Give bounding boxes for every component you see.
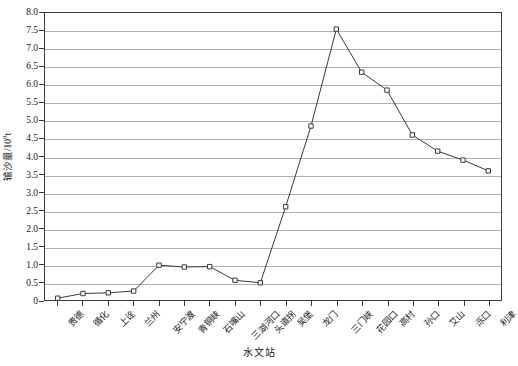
x-axis-category-label: 安宁渡 — [170, 309, 196, 335]
x-axis-category-label: 三门峡 — [349, 309, 375, 335]
y-axis-tick-label: 4.0 — [0, 151, 44, 163]
data-point-marker — [435, 149, 439, 153]
x-axis-category-label: 吴堡 — [295, 309, 315, 329]
x-tick-mark — [388, 301, 389, 306]
y-axis-tick-label: 1.0 — [0, 259, 44, 271]
x-axis-category-label: 利津 — [499, 309, 518, 329]
x-tick-mark — [235, 301, 236, 306]
x-axis-category-label: 花园口 — [374, 309, 400, 335]
y-axis-tick-label: 2.0 — [0, 223, 44, 235]
data-point-marker — [486, 169, 490, 173]
x-axis-category-label: 泺口 — [473, 309, 493, 329]
data-point-marker — [233, 278, 237, 282]
x-tick-mark — [413, 301, 414, 306]
x-tick-mark — [311, 301, 312, 306]
y-axis-tick-label: 4.5 — [0, 132, 44, 144]
x-axis-category-label: 贵德 — [66, 309, 86, 329]
data-point-marker — [182, 265, 186, 269]
y-axis-tick-label: 8.0 — [0, 6, 44, 18]
data-point-marker — [55, 296, 59, 300]
data-point-marker — [334, 27, 338, 31]
x-axis-ticks — [44, 301, 502, 307]
data-point-marker — [283, 205, 287, 209]
y-axis-tick-label: 0 — [0, 295, 44, 307]
x-axis-category-label: 孙口 — [422, 309, 442, 329]
y-axis-tick-label: 2.5 — [0, 205, 44, 217]
data-point-marker — [106, 291, 110, 295]
y-axis-tick-label: 3.5 — [0, 169, 44, 181]
data-point-marker — [309, 124, 313, 128]
x-tick-mark — [337, 301, 338, 306]
y-axis-tick-label: 7.5 — [0, 24, 44, 36]
data-point-marker — [385, 88, 389, 92]
x-axis-title: 水文站 — [0, 344, 518, 359]
data-point-marker — [157, 263, 161, 267]
x-axis-category-label: 上诠 — [117, 309, 137, 329]
y-axis-tick-label: 0.5 — [0, 277, 44, 289]
data-point-marker — [410, 133, 414, 137]
data-point-marker — [461, 158, 465, 162]
x-axis-category-label: 兰州 — [142, 309, 162, 329]
x-tick-mark — [108, 301, 109, 306]
y-axis-tick-label: 5.0 — [0, 114, 44, 126]
x-tick-mark — [438, 301, 439, 306]
data-point-marker — [359, 70, 363, 74]
plot-area — [44, 12, 502, 301]
x-axis-category-label: 头道拐 — [272, 309, 298, 335]
y-axis: 00.51.01.52.02.53.03.54.04.55.05.56.06.5… — [0, 0, 44, 302]
series-polyline — [58, 29, 489, 298]
x-tick-mark — [260, 301, 261, 306]
x-axis-category-label: 龙门 — [320, 309, 340, 329]
data-series-line — [45, 13, 501, 300]
y-axis-tick-label: 5.5 — [0, 96, 44, 108]
x-tick-mark — [57, 301, 58, 306]
x-tick-mark — [184, 301, 185, 306]
y-axis-tick-label: 6.0 — [0, 78, 44, 90]
x-tick-mark — [133, 301, 134, 306]
x-axis-category-label: 青铜峡 — [196, 309, 222, 335]
x-axis-category-label: 高村 — [397, 309, 417, 329]
data-point-marker — [258, 281, 262, 285]
x-axis-category-label: 石嘴山 — [221, 309, 247, 335]
y-axis-tick-label: 1.5 — [0, 241, 44, 253]
sediment-discharge-line-chart: 输沙量/108t 00.51.01.52.02.53.03.54.04.55.0… — [0, 0, 518, 366]
x-tick-mark — [489, 301, 490, 306]
y-axis-tick-label: 7.0 — [0, 42, 44, 54]
data-point-marker — [131, 289, 135, 293]
x-tick-mark — [362, 301, 363, 306]
x-axis-category-label: 三湖河口 — [249, 309, 282, 342]
x-axis-category-label: 循化 — [91, 309, 111, 329]
x-tick-mark — [209, 301, 210, 306]
x-axis-category-label: 艾山 — [448, 309, 468, 329]
y-axis-tick-label: 3.0 — [0, 187, 44, 199]
x-tick-mark — [464, 301, 465, 306]
x-tick-mark — [286, 301, 287, 306]
y-axis-tick-label: 6.5 — [0, 60, 44, 72]
x-tick-mark — [82, 301, 83, 306]
data-point-marker — [81, 291, 85, 295]
data-point-marker — [207, 264, 211, 268]
x-tick-mark — [159, 301, 160, 306]
